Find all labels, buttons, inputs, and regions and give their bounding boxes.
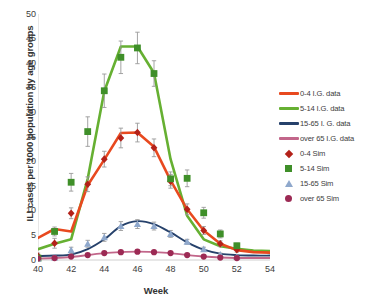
data-point-marker [85, 252, 91, 258]
data-point-marker [234, 255, 240, 261]
legend-item[interactable]: over 65 I.G. data [278, 131, 372, 146]
data-point-marker [151, 70, 158, 77]
legend-swatch-icon [278, 146, 300, 161]
data-point-marker [117, 54, 124, 61]
data-point-marker [217, 254, 223, 260]
legend-item-label: 15-65 I. G. data [300, 119, 350, 128]
x-tick-label: 54 [258, 264, 282, 274]
data-point-marker [167, 250, 173, 256]
legend-swatch-icon [278, 131, 300, 146]
data-point-marker [101, 87, 108, 94]
x-tick-label: 42 [59, 264, 83, 274]
data-point-marker [51, 255, 57, 261]
data-point-marker [68, 253, 74, 259]
legend-item-label: over 65 Sim [300, 194, 339, 203]
legend-item[interactable]: 5-14 Sim [278, 161, 372, 176]
legend-item[interactable]: 15-65 Sim [278, 176, 372, 191]
x-tick-label: 46 [125, 264, 149, 274]
data-point-marker [184, 175, 191, 182]
legend-item-label: 5-14 Sim [300, 164, 329, 173]
legend-item-label: 15-65 Sim [300, 179, 333, 188]
x-tick-label: 48 [159, 264, 183, 274]
legend-item-label: 5-14 I.G. data [300, 104, 344, 113]
legend-item[interactable]: over 65 Sim [278, 191, 372, 206]
legend-swatch-icon [278, 116, 300, 131]
legend-item-label: 0-4 I.G. data [300, 89, 340, 98]
data-point-marker [68, 209, 75, 217]
legend-swatch-icon [278, 176, 300, 191]
legend-item[interactable]: 0-4 I.G. data [278, 86, 372, 101]
data-point-marker [134, 45, 141, 52]
legend-swatch-icon [278, 161, 300, 176]
chart-legend: 0-4 I.G. data5-14 I.G. data15-65 I. G. d… [278, 86, 372, 206]
legend-swatch-icon [278, 86, 300, 101]
data-point-marker [51, 239, 58, 247]
data-point-marker [151, 249, 157, 255]
data-point-marker [101, 250, 107, 256]
legend-item[interactable]: 5-14 I.G. data [278, 101, 372, 116]
data-point-marker [68, 247, 75, 254]
legend-item-label: over 65 I.G. data [300, 134, 354, 143]
x-tick-label: 44 [92, 264, 116, 274]
legend-swatch-icon [278, 101, 300, 116]
data-point-marker [233, 242, 240, 249]
chart-canvas [38, 14, 270, 262]
legend-item[interactable]: 15-65 I. G. data [278, 116, 372, 131]
data-point-marker [84, 240, 91, 247]
x-tick-label: 40 [26, 264, 50, 274]
plot-area [38, 14, 270, 260]
legend-swatch-icon [278, 191, 300, 206]
data-point-marker [200, 209, 207, 216]
x-tick-label: 50 [192, 264, 216, 274]
legend-item[interactable]: 0-4 Sim [278, 146, 372, 161]
data-point-marker [184, 252, 190, 258]
data-point-marker [51, 228, 58, 235]
data-point-marker [84, 128, 91, 135]
x-tick-label: 52 [225, 264, 249, 274]
data-point-marker [201, 253, 207, 259]
data-point-marker [134, 249, 140, 255]
data-point-marker [118, 249, 124, 255]
data-point-marker [217, 231, 224, 238]
data-point-marker [167, 175, 174, 182]
legend-item-label: 0-4 Sim [300, 149, 325, 158]
chart-figure: ILI cases per 1000 population by age gro… [0, 0, 372, 306]
data-point-marker [68, 179, 75, 186]
